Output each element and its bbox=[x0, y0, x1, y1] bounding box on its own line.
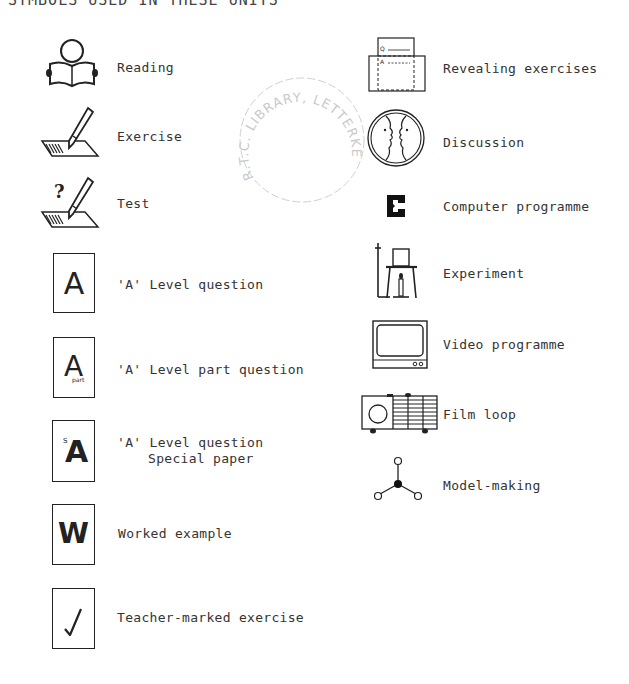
legend-label: 'A' Level part question bbox=[117, 361, 304, 378]
legend-label: Computer programme bbox=[443, 198, 589, 215]
experiment-icon bbox=[374, 241, 420, 299]
model-making-icon bbox=[372, 456, 424, 504]
legend-label: 'A' Level question bbox=[117, 276, 263, 293]
legend-label: Revealing exercises bbox=[443, 60, 597, 77]
legend-label: 'A' Level question bbox=[117, 434, 263, 451]
legend-label: Reading bbox=[117, 59, 174, 76]
legend-label: Model-making bbox=[443, 477, 541, 494]
legend-label: Teacher-marked exercise bbox=[117, 609, 304, 626]
exercise-icon bbox=[40, 106, 104, 160]
video-programme-icon bbox=[372, 320, 428, 370]
legend-label: Discussion bbox=[443, 134, 524, 151]
worked-example-icon: W bbox=[52, 504, 95, 565]
svg-text:R.T.C. LIBRARY, LETTERKENNY: R.T.C. LIBRARY, LETTERKENNY bbox=[232, 68, 364, 183]
teacher-marked-icon bbox=[52, 588, 95, 649]
computer-programme-icon bbox=[386, 194, 406, 218]
library-stamp: R.T.C. LIBRARY, LETTERKENNY bbox=[232, 68, 372, 208]
test-icon: ? bbox=[40, 174, 104, 230]
reading-icon bbox=[44, 38, 100, 92]
legend-label: Experiment bbox=[443, 265, 524, 282]
legend-label: Test bbox=[117, 195, 150, 212]
page-header: SYMBOLS USED IN THESE UNITS bbox=[8, 0, 279, 9]
a-level-special-paper-icon: S A bbox=[52, 420, 95, 482]
film-loop-icon bbox=[361, 393, 439, 435]
revealing-exercises-icon: Q A bbox=[368, 36, 426, 92]
legend-label: Exercise bbox=[117, 128, 182, 145]
stamp-text: R.T.C. LIBRARY, LETTERKENNY bbox=[232, 68, 364, 183]
a-level-question-icon: A bbox=[53, 253, 95, 313]
svg-text:?: ? bbox=[54, 181, 65, 202]
legend-label-line2: Special paper bbox=[148, 450, 254, 467]
svg-text:Q: Q bbox=[380, 45, 385, 52]
legend-label: Film loop bbox=[443, 406, 516, 423]
discussion-icon bbox=[366, 108, 426, 168]
a-level-part-question-icon: A part bbox=[53, 337, 95, 398]
legend-label: Video programme bbox=[443, 336, 565, 353]
legend-label: Worked example bbox=[118, 525, 232, 542]
